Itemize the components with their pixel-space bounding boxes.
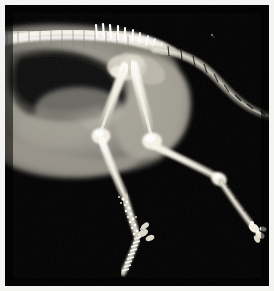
- radiograph-plate: [5, 5, 269, 286]
- image-frame: [0, 0, 274, 291]
- film-grain: [5, 5, 269, 286]
- radiograph-canvas: [5, 5, 269, 286]
